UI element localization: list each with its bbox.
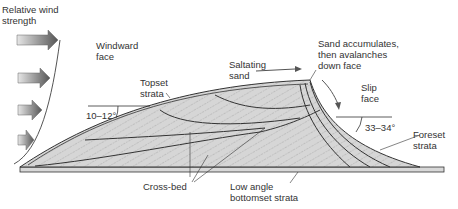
label-windward-angle: 10–12°	[86, 110, 116, 121]
label-slip-angle: 33–34°	[365, 122, 395, 133]
base-slab	[20, 167, 444, 172]
label-bottomset-strata: Low angle bottomset strata	[230, 181, 298, 203]
label-foreset-strata: Foreset strata	[413, 129, 445, 151]
label-saltating-sand: Saltating sand	[229, 59, 266, 81]
dune-diagram	[0, 0, 458, 209]
wind-profile-curve	[14, 40, 60, 164]
label-windward-face: Windward face	[96, 40, 138, 62]
label-topset-strata: Topset strata	[140, 77, 168, 99]
label-sand-accumulates: Sand accumulates, then avalanches down f…	[318, 38, 399, 71]
label-slip-face: Slip face	[361, 82, 379, 104]
label-cross-bed: Cross-bed	[143, 181, 187, 192]
label-wind-strength: Relative wind strength	[2, 4, 59, 26]
